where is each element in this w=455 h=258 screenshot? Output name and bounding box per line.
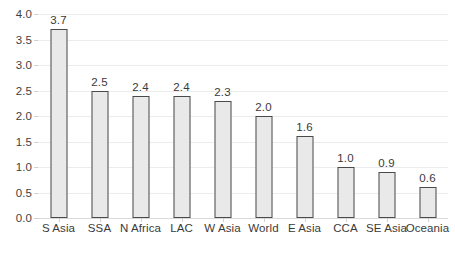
bar-value-label: 0.9	[378, 157, 394, 169]
bar-value-label: 1.0	[337, 152, 353, 164]
bar[interactable]	[337, 167, 354, 218]
x-axis-tick-mark	[305, 218, 306, 222]
x-axis: S AsiaSSAN AfricaLACW AsiaWorldE AsiaCCA…	[38, 222, 448, 244]
bar[interactable]	[419, 187, 436, 218]
bar-group[interactable]: 2.0	[243, 14, 284, 218]
x-axis-tick-mark	[346, 218, 347, 222]
bar-value-label: 0.6	[419, 172, 435, 184]
y-axis-tick-mark	[34, 193, 38, 194]
x-axis-tick-label: N Africa	[120, 222, 161, 234]
y-axis-tick-mark	[34, 218, 38, 219]
x-axis-tick-label: LAC	[170, 222, 193, 234]
y-axis-tick-label: 0.5	[16, 187, 32, 199]
bar-value-label: 2.5	[91, 76, 107, 88]
bar-group[interactable]: 0.9	[366, 14, 407, 218]
y-axis-tick-mark	[34, 14, 38, 15]
bar[interactable]	[91, 91, 108, 219]
bar[interactable]	[296, 136, 313, 218]
x-axis-tick-label: World	[248, 222, 278, 234]
x-axis-tick-label: W Asia	[204, 222, 240, 234]
bar[interactable]	[50, 29, 67, 218]
y-axis-tick-mark	[34, 40, 38, 41]
bar-chart: 0.00.51.01.52.02.53.03.54.0 3.72.52.42.4…	[0, 0, 455, 258]
x-axis-tick-mark	[223, 218, 224, 222]
bar[interactable]	[214, 101, 231, 218]
y-axis-tick-mark	[34, 167, 38, 168]
y-axis-tick-label: 2.0	[16, 110, 32, 122]
y-axis-tick-label: 3.5	[16, 34, 32, 46]
bar[interactable]	[255, 116, 272, 218]
bar-group[interactable]: 2.4	[161, 14, 202, 218]
x-axis-tick-mark	[428, 218, 429, 222]
bar[interactable]	[378, 172, 395, 218]
y-axis-tick-label: 4.0	[16, 8, 32, 20]
bar-value-label: 3.7	[50, 14, 66, 26]
x-axis-tick-mark	[100, 218, 101, 222]
x-axis-tick-mark	[387, 218, 388, 222]
x-axis-tick-label: SSA	[88, 222, 111, 234]
y-axis-tick-mark	[34, 142, 38, 143]
y-axis-tick-mark	[34, 116, 38, 117]
y-axis-tick-label: 0.0	[16, 212, 32, 224]
bar-group[interactable]: 3.7	[38, 14, 79, 218]
bar-group[interactable]: 2.5	[79, 14, 120, 218]
bar-value-label: 2.4	[132, 81, 148, 93]
y-axis-tick-label: 1.5	[16, 136, 32, 148]
x-axis-tick-label: S Asia	[42, 222, 75, 234]
y-axis-tick-mark	[34, 65, 38, 66]
x-axis-tick-mark	[59, 218, 60, 222]
y-axis-tick-label: 2.5	[16, 85, 32, 97]
bars-layer: 3.72.52.42.42.32.01.61.00.90.6	[38, 14, 448, 218]
y-axis-tick-label: 3.0	[16, 59, 32, 71]
bar-value-label: 1.6	[296, 121, 312, 133]
x-axis-tick-mark	[141, 218, 142, 222]
bar-group[interactable]: 0.6	[407, 14, 448, 218]
x-axis-tick-mark	[182, 218, 183, 222]
y-axis: 0.00.51.01.52.02.53.03.54.0	[0, 14, 32, 218]
x-axis-tick-label: CCA	[333, 222, 358, 234]
x-axis-tick-label: SE Asia	[366, 222, 407, 234]
bar-value-label: 2.4	[173, 81, 189, 93]
x-axis-tick-mark	[264, 218, 265, 222]
y-axis-tick-mark	[34, 91, 38, 92]
bar[interactable]	[173, 96, 190, 218]
bar-value-label: 2.0	[255, 101, 271, 113]
bar-group[interactable]: 1.0	[325, 14, 366, 218]
bar-group[interactable]: 1.6	[284, 14, 325, 218]
y-axis-tick-label: 1.0	[16, 161, 32, 173]
x-axis-tick-label: Oceania	[406, 222, 450, 234]
bar-group[interactable]: 2.3	[202, 14, 243, 218]
x-axis-tick-label: E Asia	[288, 222, 321, 234]
bar-value-label: 2.3	[214, 86, 230, 98]
bar[interactable]	[132, 96, 149, 218]
bar-group[interactable]: 2.4	[120, 14, 161, 218]
